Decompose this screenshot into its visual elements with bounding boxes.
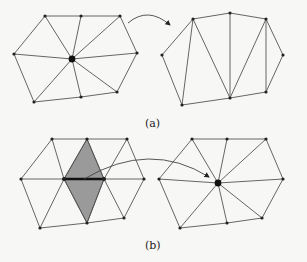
panel-a-after-vertex — [228, 11, 231, 14]
panel-b-before-edge — [52, 139, 64, 179]
panel-a-after-vertex — [281, 53, 284, 56]
panel-b-after-edge — [192, 139, 218, 183]
arrow-a — [128, 15, 170, 25]
panel-b-before-edge — [21, 139, 52, 179]
panel-b-before-vertex — [102, 177, 105, 180]
panel-b-after-vertex — [225, 137, 228, 140]
panel-b-after-center-vertex — [215, 180, 222, 187]
panel-a-before-vertex — [79, 95, 82, 98]
panel-b-after-vertex — [178, 226, 181, 229]
panel-b-after-edge — [180, 223, 227, 228]
panel-b-after-vertex — [190, 137, 193, 140]
panel-a-after-edge — [182, 19, 193, 105]
panel-a-before-edge — [81, 92, 117, 97]
panel-b-after-edge — [266, 139, 283, 179]
panel-b-after-vertex — [260, 216, 263, 219]
panel-b-after-edge — [227, 218, 262, 223]
panel-label-b: (b) — [145, 239, 161, 252]
panel-a-after-edge — [182, 98, 230, 105]
panel-a-after-edge — [162, 55, 182, 105]
panel-a-before-vertex — [43, 14, 46, 17]
panel-b-after-edge — [218, 179, 283, 183]
panel-b-before-vertex — [50, 137, 53, 140]
panel-b-after-vertex — [281, 177, 284, 180]
panel-b-after-edge — [262, 179, 283, 218]
panel-a-before-center-vertex — [69, 56, 76, 63]
panel-a-before-edge — [72, 53, 137, 59]
panel-b-before-vertex — [85, 221, 88, 224]
shaded-region — [64, 139, 104, 223]
panel-a-after-vertex — [191, 17, 194, 20]
panel-a-after-vertex — [160, 53, 163, 56]
panel-a-before-edge — [117, 53, 137, 92]
shaded-triangles — [64, 139, 104, 223]
panel-b-before-vertex — [38, 226, 41, 229]
panel-a-after-edge — [230, 92, 266, 98]
panel-a-before-edge — [120, 16, 137, 53]
panel-a-after-edge — [162, 19, 193, 55]
panel-a-before-vertex — [32, 100, 35, 103]
panel-b-after-edge — [159, 179, 218, 183]
panel-b-before-edge — [40, 223, 87, 228]
panel-b-before-vertex — [125, 137, 128, 140]
panel-b-after-vertex — [264, 137, 267, 140]
panel-a-after-vertex — [264, 17, 267, 20]
panel-b-before-edge — [21, 179, 40, 228]
panel-b-after-edge — [159, 139, 192, 179]
panel-a-before-vertex — [12, 52, 15, 55]
panel-b-after-edge — [159, 179, 180, 228]
panel-b-before-edge — [104, 179, 124, 218]
panel-a-after-edge — [266, 55, 283, 92]
panel-a-before-edge — [45, 16, 72, 59]
panel-a-before-vertex — [79, 14, 82, 17]
panel-b-before-vertex — [19, 177, 22, 180]
panel-b-before-vertex — [142, 177, 145, 180]
panel-a-before-edge — [14, 16, 45, 54]
panel-a-after-edge — [230, 13, 266, 19]
panel-a-before-edge — [14, 54, 72, 59]
panel-b-before-edge — [124, 179, 144, 218]
panel-a-after-vertex — [264, 90, 267, 93]
panel-b-before-edge — [104, 139, 127, 179]
panel-a-after-vertex — [228, 96, 231, 99]
panel-a-after-edge — [193, 13, 230, 19]
panel-a-before-vertex — [118, 14, 121, 17]
panel-b-after-vertex — [157, 177, 160, 180]
panel-label-a: (a) — [145, 117, 160, 130]
panel-a-after-vertex — [180, 103, 183, 106]
panel-a-after-edge — [266, 19, 283, 55]
panel-b-before-vertex — [85, 137, 88, 140]
panel-b-after-vertex — [225, 221, 228, 224]
panel-a-after-edge — [193, 19, 230, 98]
panel-a-after-edge — [230, 19, 266, 98]
panel-a-before-edge — [34, 97, 81, 102]
panel-a-before-edge — [34, 59, 72, 102]
panel-b-before-vertex — [122, 216, 125, 219]
panel-a-before-vertex — [135, 51, 138, 54]
mesh-simplification-figure — [0, 0, 307, 262]
panel-a-before-vertex — [115, 90, 118, 93]
panel-b-before-edge — [87, 218, 124, 223]
panel-b-before-edge — [40, 179, 64, 228]
panel-b-before-vertex — [62, 177, 65, 180]
panel-b-after-edge — [180, 183, 218, 228]
figure-canvas: (a) (b) — [0, 0, 307, 262]
panel-a-before-edge — [14, 54, 34, 102]
